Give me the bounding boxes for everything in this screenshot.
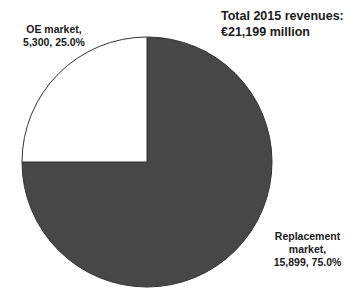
slice-label-oe-market-line-2: 5,300, 25.0% (8, 36, 100, 49)
pie-chart-figure: Total 2015 revenues: €21,199 million OE … (0, 0, 363, 301)
slice-label-replacement-market-line-3: 15,899, 75.0% (255, 256, 360, 269)
slice-label-replacement-market-line-1: Replacement (255, 230, 360, 243)
slice-label-oe-market-line-1: OE market, (8, 23, 100, 36)
chart-title-line-2: €21,199 million (221, 24, 344, 40)
slice-label-oe-market: OE market, 5,300, 25.0% (8, 23, 100, 49)
chart-title-line-1: Total 2015 revenues: (221, 8, 344, 24)
pie-slice-oe-market (22, 37, 147, 162)
slice-label-replacement-market-line-2: market, (255, 243, 360, 256)
slice-label-replacement-market: Replacement market, 15,899, 75.0% (255, 230, 360, 269)
chart-title: Total 2015 revenues: €21,199 million (221, 8, 344, 40)
